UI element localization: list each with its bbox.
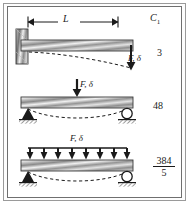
column-header-c1-text: C: [150, 12, 157, 23]
fraction-numerator: 384: [152, 155, 176, 166]
case-cantilever-end-load: [16, 16, 135, 71]
beam-body-simple-uniform: [21, 160, 133, 171]
load-label-simple-center: F, δ: [80, 80, 93, 89]
beam-deflection-figure: C1 L F, δ F, δ F, δ 3 48 384 5: [0, 0, 189, 204]
deflection-curve-simple-uniform: [28, 172, 127, 181]
load-label-simple-uniform: F, δ: [70, 134, 83, 143]
case-simple-center-load: [19, 79, 136, 124]
distributed-load-arrows: [27, 148, 131, 160]
span-dimension-line: [28, 16, 119, 28]
constant-value-simple-uniform: 384 5: [152, 155, 176, 178]
beam-body-simple-center: [21, 97, 133, 108]
deflection-curve-simple-center: [28, 109, 127, 118]
column-header-c1-subscript: 1: [157, 18, 161, 26]
pin-support-left-uniform: [19, 171, 37, 187]
pin-support-left-center: [19, 108, 37, 124]
beam-body-cantilever: [21, 40, 133, 51]
fraction-denominator: 5: [152, 167, 176, 178]
constant-value-cantilever: 3: [157, 48, 162, 58]
span-length-label: L: [63, 14, 69, 24]
case-simple-uniform-load: [19, 148, 136, 187]
roller-support-right-center: [118, 108, 136, 123]
deflection-curve-cantilever: [29, 52, 131, 68]
constant-value-simple-center: 48: [153, 101, 163, 111]
column-header-c1: C1: [150, 13, 160, 26]
roller-support-right-uniform: [118, 171, 136, 186]
load-label-cantilever: F, δ: [128, 54, 141, 63]
